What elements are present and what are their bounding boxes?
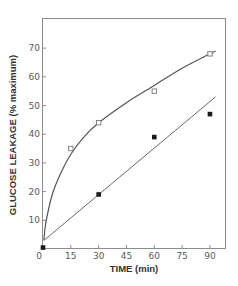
x-tick-label: 75: [176, 251, 187, 261]
y-axis-title: GLUCOSE LEAKAGE (% maximum): [7, 55, 18, 215]
fit-lines: [44, 51, 216, 240]
x-axis-ticks: 0153045607590: [36, 245, 216, 261]
open-square-marker: [69, 146, 73, 150]
filled-square-marker: [41, 245, 46, 250]
open-square-fit-curve: [44, 51, 216, 240]
y-tick-label: 20: [29, 187, 41, 197]
filled-square-marker: [208, 112, 213, 117]
plot-frame: [43, 19, 226, 249]
x-tick-label: 30: [93, 251, 105, 261]
plot-border: [43, 19, 226, 249]
filled-square-marker: [152, 135, 157, 140]
x-tick-label: 60: [149, 251, 161, 261]
x-tick-label: 45: [121, 251, 132, 261]
x-tick-label: 90: [204, 251, 216, 261]
x-axis-title: TIME (min): [110, 263, 159, 274]
data-markers: [41, 52, 213, 250]
filled-square-marker: [96, 192, 101, 197]
y-axis-ticks: 10203040506070: [29, 43, 46, 225]
glucose-leakage-chart: 0153045607590 10203040506070 TIME (min) …: [0, 0, 238, 286]
y-tick-label: 70: [29, 43, 41, 53]
y-tick-label: 60: [29, 72, 41, 82]
open-square-marker: [96, 121, 100, 125]
y-tick-label: 10: [29, 215, 41, 225]
x-tick-label: 0: [36, 251, 42, 261]
y-tick-label: 50: [29, 101, 41, 111]
open-square-marker: [152, 89, 156, 93]
x-tick-label: 15: [65, 251, 76, 261]
y-tick-label: 40: [29, 129, 41, 139]
open-square-marker: [208, 52, 212, 56]
y-tick-label: 30: [29, 158, 41, 168]
filled-square-fit-line: [44, 97, 216, 241]
